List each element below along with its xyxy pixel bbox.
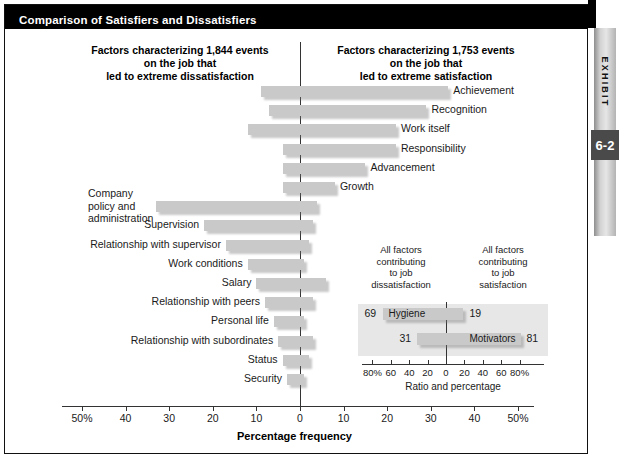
- inset-x-tick-0: [372, 360, 373, 364]
- bar-advancement: [283, 163, 366, 174]
- bar-security: [287, 374, 304, 385]
- bar-work-conditions: [248, 259, 305, 270]
- inset-x-tick-3: [428, 360, 429, 364]
- inset-value-left-motivators: 31: [399, 332, 411, 344]
- x-tick-9: [474, 406, 475, 411]
- x-tick-label-10: 50%: [498, 412, 538, 424]
- inset-header-satisfaction-line-1: All factors: [462, 244, 544, 256]
- inset-ratio-chart: All factorscontributingto jobdissatisfac…: [358, 244, 548, 394]
- exhibit-tab-word-text: EXHIBIT: [600, 57, 610, 108]
- inset-header-dissatisfaction-line-1: All factors: [360, 244, 442, 256]
- x-axis-title: Percentage frequency: [0, 430, 589, 442]
- bar-label-personal-life: Personal life: [211, 315, 269, 326]
- x-tick-8: [431, 406, 432, 411]
- bar-label-advancement: Advancement: [370, 162, 434, 173]
- x-tick-10: [518, 406, 519, 411]
- x-tick-label-8: 30: [411, 412, 451, 424]
- bar-label-relationship-with-subordinates: Relationship with subordinates: [131, 335, 273, 346]
- inset-header-dissatisfaction: All factorscontributingto jobdissatisfac…: [360, 244, 442, 290]
- exhibit-page: Comparison of Satisfiers and Dissatisfie…: [0, 0, 629, 466]
- x-tick-4: [256, 406, 257, 411]
- bar-label-responsibility: Responsibility: [401, 143, 466, 154]
- inset-x-tick-4: [446, 360, 447, 364]
- bar-growth: [283, 182, 335, 193]
- x-tick-label-7: 20: [367, 412, 407, 424]
- bar-company-policy-and-administration: [156, 201, 317, 212]
- inset-x-axis-line: [362, 364, 544, 365]
- x-axis-line: [62, 406, 534, 407]
- bar-label-work-itself: Work itself: [401, 123, 450, 134]
- exhibit-tab-word: EXHIBIT: [594, 36, 616, 128]
- bar-personal-life: [274, 316, 305, 327]
- bar-label-recognition: Recognition: [431, 104, 486, 115]
- inset-header-satisfaction-line-3: to job: [462, 267, 544, 279]
- inset-x-axis-title: Ratio and percentage: [358, 381, 548, 392]
- bar-relationship-with-subordinates: [278, 336, 313, 347]
- bar-recognition: [269, 105, 426, 116]
- inset-value-right-motivators: 81: [527, 332, 539, 344]
- bar-supervision: [204, 220, 313, 231]
- bar-responsibility: [283, 144, 396, 155]
- inset-value-left-hygiene: 69: [365, 307, 377, 319]
- inset-bar-label-motivators: Motivators: [469, 333, 515, 345]
- inset-header-satisfaction-line-4: satisfaction: [462, 279, 544, 291]
- bar-relationship-with-peers: [265, 297, 313, 308]
- inset-x-tick-2: [409, 360, 410, 364]
- inset-header-satisfaction-line-2: contributing: [462, 256, 544, 268]
- x-tick-0: [82, 406, 83, 411]
- bar-label-supervision: Supervision: [144, 219, 199, 230]
- tab-corner-shadow: [588, 0, 596, 28]
- bar-salary: [256, 278, 326, 289]
- x-tick-7: [387, 406, 388, 411]
- bar-label-relationship-with-peers: Relationship with peers: [152, 296, 261, 307]
- inset-x-tick-5: [464, 360, 465, 364]
- inset-x-tick-8: [520, 360, 521, 364]
- bar-label-security: Security: [244, 373, 282, 384]
- bar-label-status: Status: [248, 354, 278, 365]
- bar-achievement: [261, 86, 448, 97]
- bar-relationship-with-supervisor: [226, 240, 309, 251]
- bar-label-achievement: Achievement: [453, 85, 514, 96]
- x-tick-label-4: 10: [236, 412, 276, 424]
- x-tick-label-5: 0: [280, 412, 320, 424]
- x-tick-1: [126, 406, 127, 411]
- x-tick-label-2: 30: [149, 412, 189, 424]
- inset-bar-label-hygiene: Hygiene: [389, 308, 426, 320]
- inset-header-dissatisfaction-line-3: to job: [360, 267, 442, 279]
- bar-work-itself: [248, 124, 396, 135]
- bar-label-work-conditions: Work conditions: [168, 258, 243, 269]
- inset-value-right-hygiene: 19: [469, 307, 481, 319]
- bar-label-company-policy-and-administration: Company policy and administration: [88, 187, 150, 225]
- bar-label-salary: Salary: [222, 277, 252, 288]
- bar-label-growth: Growth: [340, 181, 374, 192]
- x-tick-6: [344, 406, 345, 411]
- x-tick-5: [300, 406, 301, 411]
- exhibit-tab-number: 6-2: [591, 130, 619, 160]
- x-tick-label-3: 20: [193, 412, 233, 424]
- x-tick-2: [169, 406, 170, 411]
- bar-label-relationship-with-supervisor: Relationship with supervisor: [90, 239, 221, 250]
- inset-x-tick-6: [483, 360, 484, 364]
- inset-x-tick-7: [501, 360, 502, 364]
- inset-header-dissatisfaction-line-2: contributing: [360, 256, 442, 268]
- inset-x-tick-1: [391, 360, 392, 364]
- x-tick-3: [213, 406, 214, 411]
- inset-header-satisfaction: All factorscontributingto jobsatisfactio…: [462, 244, 544, 290]
- x-tick-label-6: 10: [324, 412, 364, 424]
- bar-status: [283, 355, 309, 366]
- x-tick-label-9: 40: [454, 412, 494, 424]
- x-tick-label-0: 50%: [62, 412, 102, 424]
- x-tick-label-1: 40: [106, 412, 146, 424]
- inset-x-tick-label-8: 80%: [507, 367, 533, 378]
- inset-header-dissatisfaction-line-4: dissatisfaction: [360, 279, 442, 291]
